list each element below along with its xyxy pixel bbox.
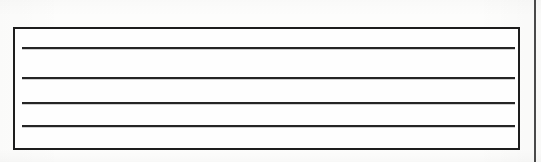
writing-lines-group — [0, 0, 541, 162]
writing-line-2[interactable] — [22, 77, 515, 79]
writing-line-4[interactable] — [22, 125, 515, 127]
page-column-divider — [534, 0, 536, 162]
writing-line-3[interactable] — [22, 102, 515, 104]
writing-line-1[interactable] — [22, 47, 515, 49]
document-page — [0, 0, 541, 162]
